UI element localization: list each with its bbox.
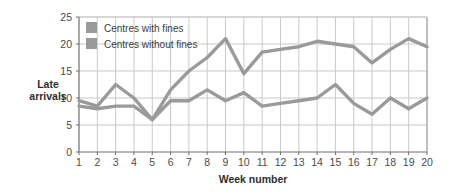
x-tick-label: 10 bbox=[238, 156, 250, 168]
x-tick-label: 1 bbox=[76, 156, 82, 168]
x-tick-label: 11 bbox=[257, 156, 268, 168]
x-tick-label: 7 bbox=[186, 156, 192, 168]
y-tick-label: 25 bbox=[60, 11, 72, 23]
y-tick-label: 5 bbox=[66, 119, 72, 131]
x-tick-label: 14 bbox=[311, 156, 323, 168]
legend-swatch bbox=[86, 38, 97, 49]
legend-label: Centres without fines bbox=[104, 39, 197, 50]
y-axis-title-line1: Late bbox=[37, 78, 59, 90]
x-tick-label: 9 bbox=[223, 156, 229, 168]
x-tick-label: 20 bbox=[421, 156, 433, 168]
x-tick-label: 2 bbox=[94, 156, 100, 168]
x-tick-label: 13 bbox=[293, 156, 305, 168]
x-axis-title: Week number bbox=[219, 173, 288, 185]
x-tick-label: 19 bbox=[403, 156, 415, 168]
x-tick-label: 18 bbox=[385, 156, 397, 168]
x-tick-label: 16 bbox=[348, 156, 360, 168]
y-tick-label: 20 bbox=[60, 38, 72, 50]
x-tick-label: 5 bbox=[149, 156, 155, 168]
x-tick-label: 6 bbox=[168, 156, 174, 168]
line-chart: 0510152025 12345678910111213141516171819… bbox=[0, 0, 451, 195]
legend-label: Centres with fines bbox=[104, 23, 183, 34]
x-tick-label: 8 bbox=[204, 156, 210, 168]
x-tick-label: 15 bbox=[330, 156, 342, 168]
legend-swatch bbox=[86, 22, 97, 33]
x-tick-label: 3 bbox=[113, 156, 119, 168]
y-axis-title-line2: arrivals bbox=[29, 90, 67, 102]
y-tick-label: 15 bbox=[60, 65, 72, 77]
y-tick-label: 0 bbox=[66, 146, 72, 158]
x-axis-title-label: Week number bbox=[219, 173, 288, 185]
x-tick-label: 17 bbox=[366, 156, 378, 168]
chart-canvas: 0510152025 12345678910111213141516171819… bbox=[0, 0, 451, 195]
x-tick-label: 12 bbox=[275, 156, 287, 168]
x-tick-label: 4 bbox=[131, 156, 137, 168]
